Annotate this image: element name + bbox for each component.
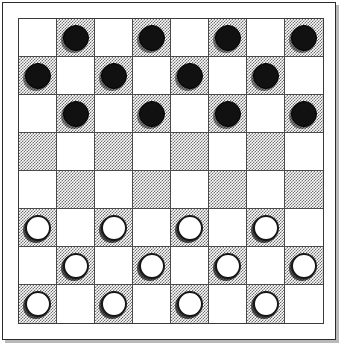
board-square-r1c5[interactable] <box>171 19 209 57</box>
white-checker-piece[interactable] <box>177 291 203 317</box>
board-square-r6c2[interactable] <box>57 209 95 247</box>
black-checker-piece[interactable] <box>63 25 89 51</box>
white-checker-piece[interactable] <box>253 215 279 241</box>
board-square-r4c1[interactable] <box>19 133 57 171</box>
board-square-r2c6[interactable] <box>209 57 247 95</box>
board-square-r3c1[interactable] <box>19 95 57 133</box>
board-square-r2c7[interactable] <box>247 57 285 95</box>
board-square-r1c1[interactable] <box>19 19 57 57</box>
board-square-r3c7[interactable] <box>247 95 285 133</box>
board-square-r2c3[interactable] <box>95 57 133 95</box>
board-square-r3c2[interactable] <box>57 95 95 133</box>
board-square-r8c6[interactable] <box>209 285 247 323</box>
board-square-r5c7[interactable] <box>247 171 285 209</box>
board-square-r5c4[interactable] <box>133 171 171 209</box>
board-square-r4c3[interactable] <box>95 133 133 171</box>
board-square-r4c2[interactable] <box>57 133 95 171</box>
black-checker-piece[interactable] <box>253 63 279 89</box>
board-square-r2c2[interactable] <box>57 57 95 95</box>
board-square-r8c8[interactable] <box>285 285 323 323</box>
board-square-r8c2[interactable] <box>57 285 95 323</box>
board-square-r5c1[interactable] <box>19 171 57 209</box>
black-checker-piece[interactable] <box>101 63 127 89</box>
board-square-r1c3[interactable] <box>95 19 133 57</box>
checker-board[interactable] <box>18 18 324 324</box>
black-checker-piece[interactable] <box>291 25 317 51</box>
board-square-r2c4[interactable] <box>133 57 171 95</box>
white-checker-piece[interactable] <box>253 291 279 317</box>
board-square-r4c6[interactable] <box>209 133 247 171</box>
black-checker-piece[interactable] <box>177 63 203 89</box>
board-square-r8c4[interactable] <box>133 285 171 323</box>
white-checker-piece[interactable] <box>25 291 51 317</box>
white-checker-piece[interactable] <box>101 291 127 317</box>
board-square-r5c8[interactable] <box>285 171 323 209</box>
black-checker-piece[interactable] <box>63 101 89 127</box>
board-square-r5c6[interactable] <box>209 171 247 209</box>
black-checker-piece[interactable] <box>291 101 317 127</box>
board-square-r7c2[interactable] <box>57 247 95 285</box>
white-checker-piece[interactable] <box>25 215 51 241</box>
white-checker-piece[interactable] <box>63 253 89 279</box>
board-square-r7c1[interactable] <box>19 247 57 285</box>
board-square-r3c4[interactable] <box>133 95 171 133</box>
board-square-r6c8[interactable] <box>285 209 323 247</box>
board-square-r6c7[interactable] <box>247 209 285 247</box>
board-square-r7c7[interactable] <box>247 247 285 285</box>
board-square-r1c4[interactable] <box>133 19 171 57</box>
board-square-r7c5[interactable] <box>171 247 209 285</box>
white-checker-piece[interactable] <box>101 215 127 241</box>
white-checker-piece[interactable] <box>215 253 241 279</box>
white-checker-piece[interactable] <box>139 253 165 279</box>
board-square-r5c5[interactable] <box>171 171 209 209</box>
board-frame <box>2 2 336 340</box>
board-square-r3c6[interactable] <box>209 95 247 133</box>
board-square-r8c5[interactable] <box>171 285 209 323</box>
board-square-r6c1[interactable] <box>19 209 57 247</box>
black-checker-piece[interactable] <box>139 25 165 51</box>
board-square-r2c8[interactable] <box>285 57 323 95</box>
board-square-r7c8[interactable] <box>285 247 323 285</box>
board-square-r4c5[interactable] <box>171 133 209 171</box>
board-square-r7c4[interactable] <box>133 247 171 285</box>
black-checker-piece[interactable] <box>215 25 241 51</box>
board-square-r2c1[interactable] <box>19 57 57 95</box>
board-square-r1c8[interactable] <box>285 19 323 57</box>
board-square-r5c2[interactable] <box>57 171 95 209</box>
board-square-r6c3[interactable] <box>95 209 133 247</box>
white-checker-piece[interactable] <box>291 253 317 279</box>
board-square-r7c3[interactable] <box>95 247 133 285</box>
board-square-r8c3[interactable] <box>95 285 133 323</box>
board-square-r1c7[interactable] <box>247 19 285 57</box>
board-square-r7c6[interactable] <box>209 247 247 285</box>
board-square-r6c5[interactable] <box>171 209 209 247</box>
board-square-r3c5[interactable] <box>171 95 209 133</box>
board-square-r6c6[interactable] <box>209 209 247 247</box>
board-square-r4c8[interactable] <box>285 133 323 171</box>
board-square-r1c2[interactable] <box>57 19 95 57</box>
board-square-r4c7[interactable] <box>247 133 285 171</box>
board-square-r8c1[interactable] <box>19 285 57 323</box>
board-square-r3c3[interactable] <box>95 95 133 133</box>
board-square-r5c3[interactable] <box>95 171 133 209</box>
board-square-r1c6[interactable] <box>209 19 247 57</box>
board-square-r8c7[interactable] <box>247 285 285 323</box>
board-square-r6c4[interactable] <box>133 209 171 247</box>
board-square-r3c8[interactable] <box>285 95 323 133</box>
black-checker-piece[interactable] <box>139 101 165 127</box>
white-checker-piece[interactable] <box>177 215 203 241</box>
black-checker-piece[interactable] <box>25 63 51 89</box>
board-square-r2c5[interactable] <box>171 57 209 95</box>
board-square-r4c4[interactable] <box>133 133 171 171</box>
black-checker-piece[interactable] <box>215 101 241 127</box>
